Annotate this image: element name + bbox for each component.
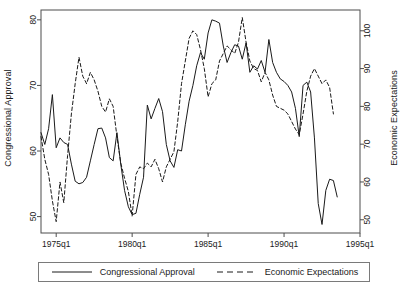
legend-item-economic-expectations: Economic Expectations <box>205 267 369 277</box>
x-axis-tick-label: 1990q1 <box>270 239 299 249</box>
x-axis-tick-label: 1975q1 <box>42 239 71 249</box>
plot-frame <box>41 10 360 233</box>
legend-label-congressional-approval: Congressional Approval <box>100 267 195 277</box>
legend-swatch-solid-icon <box>50 267 94 277</box>
series-line-economic-expectations <box>41 18 333 222</box>
x-axis-tick-label: 1980q1 <box>118 239 147 249</box>
chart-figure: Congressional Approval Economic Expectat… <box>0 0 403 291</box>
y-axis-left-tick-label: 70 <box>28 80 38 90</box>
y-axis-right-tick-label: 90 <box>362 64 372 74</box>
y-axis-right-tick-label: 100 <box>362 23 372 37</box>
legend-swatch-dashed-icon <box>215 267 259 277</box>
y-axis-right-tick-label: 80 <box>362 101 372 111</box>
chart-legend: Congressional Approval Economic Expectat… <box>38 262 370 282</box>
x-axis-tick-label: 1985q1 <box>194 239 223 249</box>
series-line-congressional-approval <box>41 20 337 225</box>
y-axis-left-tick-label: 80 <box>28 15 38 25</box>
y-axis-right-tick-label: 50 <box>362 215 372 225</box>
y-axis-right-tick-label: 60 <box>362 177 372 187</box>
y-axis-left-tick-label: 50 <box>28 212 38 222</box>
legend-item-congressional-approval: Congressional Approval <box>40 267 205 277</box>
chart-plot-area: 5060708050607080901001975q11980q11985q11… <box>0 0 403 291</box>
y-axis-right-tick-label: 70 <box>362 139 372 149</box>
legend-label-economic-expectations: Economic Expectations <box>265 267 359 277</box>
x-axis-tick-label: 1995q1 <box>346 239 375 249</box>
y-axis-left-tick-label: 60 <box>28 146 38 156</box>
